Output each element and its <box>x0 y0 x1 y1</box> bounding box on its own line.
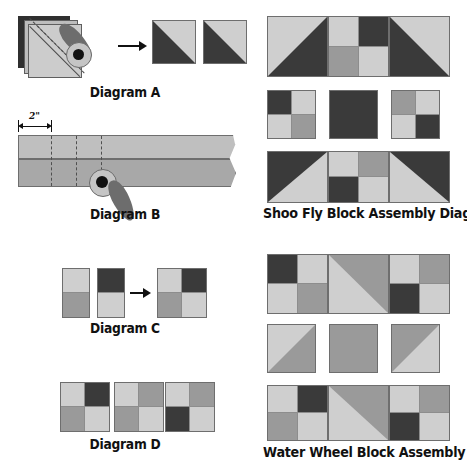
arrow-c-head <box>143 288 151 298</box>
patch <box>359 17 389 47</box>
four-patch <box>391 90 440 139</box>
caption-diagram-b: Diagram B <box>15 206 235 222</box>
shoo-fly-row-top <box>267 16 450 77</box>
patch <box>158 269 182 293</box>
cutter-hub <box>73 49 84 60</box>
two-patch <box>98 269 124 317</box>
patch <box>268 115 292 139</box>
patch <box>268 255 298 284</box>
four-patch <box>166 383 214 431</box>
half-square-triangle <box>389 151 450 203</box>
patch <box>166 383 190 407</box>
patch <box>390 255 420 284</box>
patch <box>390 413 420 440</box>
shoo-fly-row-bottom <box>267 151 450 203</box>
patch <box>158 293 182 317</box>
patch <box>139 407 163 431</box>
patch <box>85 407 109 431</box>
patch <box>182 293 206 317</box>
patch <box>98 293 124 317</box>
patch <box>298 255 328 284</box>
water-wheel-group: Water Wheel Block Assembly Diagram <box>250 252 467 457</box>
diagram-c-group: Diagram C <box>0 262 250 332</box>
patch <box>329 177 359 202</box>
four-patch <box>328 151 389 203</box>
half-square-triangle <box>267 151 328 203</box>
patch <box>392 91 416 115</box>
half-square-triangle <box>391 324 440 373</box>
patch <box>420 386 450 413</box>
diagram-c-result <box>157 268 207 318</box>
patch <box>268 386 298 413</box>
patch <box>115 383 139 407</box>
diagram-a-result-1 <box>152 20 196 64</box>
patch <box>292 91 316 115</box>
four-patch <box>61 383 109 431</box>
water-wheel-row-bottom <box>267 385 450 441</box>
caption-diagram-a: Diagram A <box>15 84 235 100</box>
diagram-d-unit-3 <box>165 382 215 432</box>
solid-square <box>329 324 378 373</box>
dimension-line <box>22 126 48 127</box>
arrow-a-head <box>139 41 147 51</box>
diagram-d-unit-2 <box>114 382 164 432</box>
four-patch <box>267 385 328 441</box>
water-wheel-row-top <box>267 254 450 314</box>
patch <box>329 17 359 47</box>
two-patch <box>63 269 89 317</box>
four-patch <box>389 254 450 314</box>
patch <box>390 284 420 313</box>
quilt-instruction-sheet: Diagram A 2" Diagram B <box>0 0 467 463</box>
patch <box>420 284 450 313</box>
patch <box>392 115 416 139</box>
half-square-triangle <box>389 16 450 77</box>
shoo-fly-group: Shoo Fly Block Assembly Diagram <box>250 8 467 218</box>
patch <box>61 383 85 407</box>
cut-line-2 <box>76 136 77 186</box>
patch <box>359 177 389 202</box>
patch <box>190 407 214 431</box>
patch <box>416 115 440 139</box>
half-square-triangle <box>204 21 246 63</box>
patch <box>298 413 328 440</box>
patch <box>61 407 85 431</box>
four-patch <box>267 90 316 139</box>
arrow-a-line <box>118 45 140 47</box>
shoo-fly-row-middle <box>267 90 440 139</box>
caption-water-wheel: Water Wheel Block Assembly Diagram <box>263 444 454 460</box>
cutter-hub <box>96 176 108 188</box>
diagram-d-group: Diagram D <box>0 378 250 448</box>
diagram-c-segment-2 <box>97 268 125 318</box>
diagram-c-segment-1 <box>62 268 90 318</box>
arrow-c-line <box>130 292 144 294</box>
solid-square <box>329 90 378 139</box>
patch <box>329 152 359 177</box>
patch <box>329 47 359 77</box>
patch <box>139 383 163 407</box>
patch <box>166 407 190 431</box>
patch <box>298 284 328 313</box>
patch <box>63 269 89 293</box>
patch <box>85 383 109 407</box>
patch <box>420 255 450 284</box>
patch <box>190 383 214 407</box>
four-patch <box>115 383 163 431</box>
patch <box>416 91 440 115</box>
half-square-triangle <box>328 254 389 314</box>
four-patch <box>267 254 328 314</box>
patch <box>115 407 139 431</box>
dimension-label: 2" <box>29 111 40 121</box>
patch <box>268 413 298 440</box>
water-wheel-row-middle <box>267 324 440 373</box>
caption-shoo-fly: Shoo Fly Block Assembly Diagram <box>263 205 454 221</box>
patch <box>63 293 89 317</box>
dimension-tick-left <box>18 120 19 132</box>
patch <box>268 91 292 115</box>
patch <box>359 152 389 177</box>
patch <box>298 386 328 413</box>
dimension-tick-right <box>51 120 52 132</box>
rotary-cutter-a <box>60 12 132 74</box>
four-patch <box>328 16 389 77</box>
cut-line-1 <box>51 136 52 186</box>
patch <box>390 386 420 413</box>
